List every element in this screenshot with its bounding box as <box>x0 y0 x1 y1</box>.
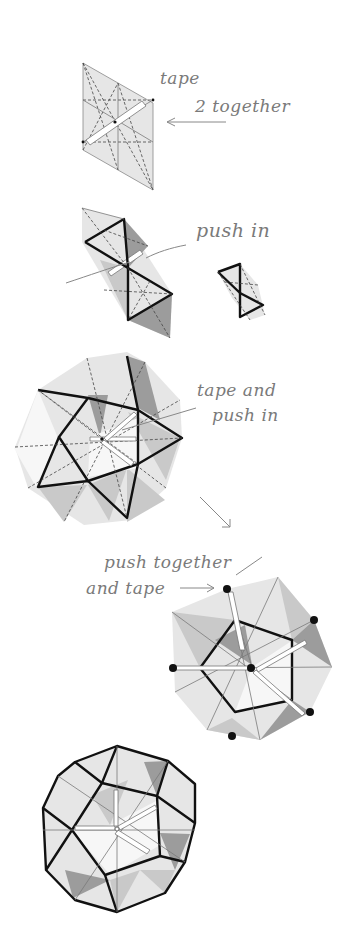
step4-label-line2: and tape <box>86 578 165 598</box>
step1-rhombus <box>82 63 155 190</box>
step4-partial-ball <box>169 577 332 740</box>
step5-finished-ball <box>43 746 195 912</box>
step3-label-line2: push in <box>212 405 279 425</box>
step2-small-result <box>218 264 265 320</box>
step3-label-line1: tape and <box>197 380 276 400</box>
arrow-step4-top <box>236 557 262 575</box>
arrow-step2-right <box>146 245 186 258</box>
step3-star <box>14 352 182 525</box>
step1-label-line1: tape <box>160 68 200 88</box>
step4-label-line1: push together <box>104 552 231 572</box>
arrow-step3-to-4 <box>200 497 230 527</box>
step1-label-line2: 2 together <box>195 96 290 116</box>
origami-diagram: .thin{stroke:#7a7a7a;stroke-width:0.8;fi… <box>0 0 357 938</box>
step2-label: push in <box>196 220 270 240</box>
